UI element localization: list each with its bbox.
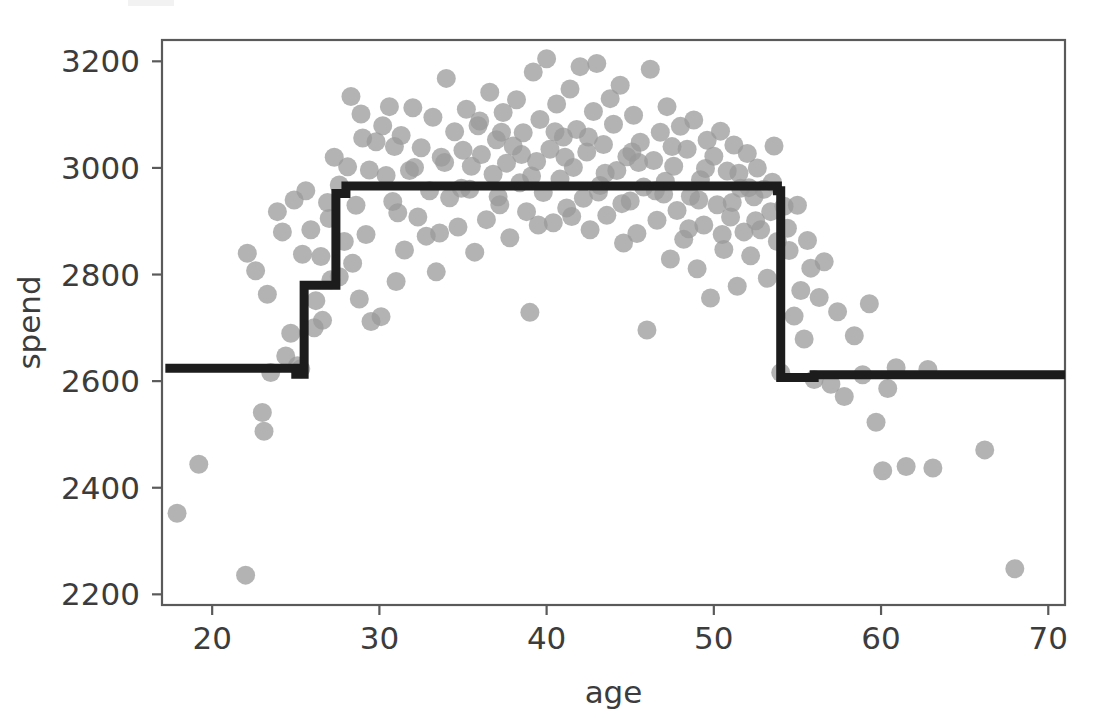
x-tick-label: 40	[527, 620, 566, 656]
scatter-point	[604, 115, 623, 134]
scatter-point	[624, 106, 643, 125]
scatter-point	[372, 307, 391, 326]
scatter-point	[470, 112, 489, 131]
scatter-point	[668, 201, 687, 220]
scatter-point	[571, 57, 590, 76]
scatter-point	[338, 157, 357, 176]
scatter-point	[765, 137, 784, 156]
scatter-point	[746, 211, 765, 230]
scatter-point	[581, 220, 600, 239]
scatter-point	[405, 158, 424, 177]
scatter-point	[748, 158, 767, 177]
scatter-point	[258, 285, 277, 304]
scatter-point	[285, 190, 304, 209]
scatter-point	[867, 413, 886, 432]
scatter-point	[835, 387, 854, 406]
scatter-point	[445, 122, 464, 141]
scatter-point	[388, 203, 407, 222]
scatter-point	[758, 269, 777, 288]
scatter-point	[408, 207, 427, 226]
scatter-point	[492, 123, 511, 142]
scatter-point	[462, 157, 481, 176]
scatter-point	[661, 250, 680, 269]
scatter-point	[873, 461, 892, 480]
chart-figure: 203040506070220024002600280030003200ages…	[0, 0, 1104, 718]
scatter-point	[561, 80, 580, 99]
scatter-point	[647, 211, 666, 230]
scatter-point	[741, 246, 760, 265]
scatter-point	[437, 69, 456, 88]
scatter-point	[723, 193, 742, 212]
scatter-points-group	[168, 49, 1025, 584]
scatter-point	[815, 252, 834, 271]
scatter-point	[579, 128, 598, 147]
scatter-point	[350, 290, 369, 309]
scatter-point	[684, 110, 703, 129]
scatter-point	[357, 225, 376, 244]
scatter-point	[587, 54, 606, 73]
scatter-point	[679, 219, 698, 238]
x-tick-label: 50	[694, 620, 733, 656]
scatter-point	[477, 210, 496, 229]
scatter-point	[897, 457, 916, 476]
scatter-point	[611, 76, 630, 95]
scatter-point	[373, 116, 392, 135]
scatter-point	[412, 138, 431, 157]
scatter-plot-svg: 203040506070220024002600280030003200ages…	[0, 0, 1104, 718]
scatter-point	[360, 161, 379, 180]
scatter-point	[562, 207, 581, 226]
scatter-point	[454, 141, 473, 160]
scatter-point	[530, 110, 549, 129]
scatter-point	[387, 272, 406, 291]
scatter-point	[268, 202, 287, 221]
scatter-point	[713, 225, 732, 244]
scatter-point	[798, 231, 817, 250]
scatter-point	[351, 105, 370, 124]
scatter-point	[341, 87, 360, 106]
scatter-point	[236, 566, 255, 585]
scatter-point	[514, 123, 533, 142]
x-axis-title: age	[585, 674, 643, 710]
scatter-point	[556, 148, 575, 167]
scatter-point	[520, 303, 539, 322]
scatter-point	[189, 455, 208, 474]
scatter-point	[448, 218, 467, 237]
scatter-point	[529, 215, 548, 234]
scatter-point	[975, 440, 994, 459]
scatter-point	[395, 241, 414, 260]
scatter-point	[255, 422, 274, 441]
scatter-point	[688, 259, 707, 278]
scatter-point	[293, 245, 312, 264]
scatter-point	[427, 262, 446, 281]
y-tick-label: 2400	[61, 470, 140, 506]
scatter-point	[500, 228, 519, 247]
scatter-point	[696, 159, 715, 178]
scatter-point	[728, 277, 747, 296]
scatter-point	[788, 196, 807, 215]
scatter-point	[597, 206, 616, 225]
scatter-point	[663, 137, 682, 156]
scatter-point	[860, 294, 879, 313]
y-axis-title: spend	[11, 275, 47, 369]
scatter-point	[435, 153, 454, 172]
y-tick-label: 2800	[61, 257, 140, 293]
scatter-point	[423, 108, 442, 127]
scatter-point	[828, 302, 847, 321]
scatter-point	[785, 307, 804, 326]
scatter-point	[627, 224, 646, 243]
scatter-point	[311, 247, 330, 266]
scatter-point	[1005, 559, 1024, 578]
scatter-point	[584, 102, 603, 121]
scatter-point	[641, 60, 660, 79]
scatter-point	[465, 243, 484, 262]
scatter-point	[346, 196, 365, 215]
scatter-point	[385, 137, 404, 156]
scatter-point	[622, 142, 641, 161]
scatter-point	[380, 97, 399, 116]
scatter-point	[923, 459, 942, 478]
y-tick-label: 2600	[61, 363, 140, 399]
scatter-point	[253, 403, 272, 422]
scatter-point	[545, 122, 564, 141]
scatter-point	[701, 288, 720, 307]
scatter-point	[547, 94, 566, 113]
